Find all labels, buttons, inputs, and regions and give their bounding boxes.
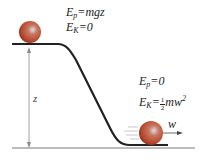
bottom-kinetic-energy-label: EK=12mw2 — [139, 93, 186, 112]
ball-top — [19, 21, 41, 43]
height-arrow-head-bottom — [27, 142, 31, 148]
motion-lines — [124, 127, 139, 139]
diagram-canvas — [0, 0, 204, 165]
top-kinetic-energy-label: EK=0 — [66, 21, 93, 37]
ball-bottom — [139, 121, 163, 145]
velocity-label: w — [168, 118, 176, 130]
bottom-potential-energy-label: Ep=0 — [139, 75, 164, 91]
height-label: z — [33, 92, 37, 104]
height-arrow-head-top — [27, 47, 31, 53]
velocity-arrow-head — [177, 131, 183, 135]
